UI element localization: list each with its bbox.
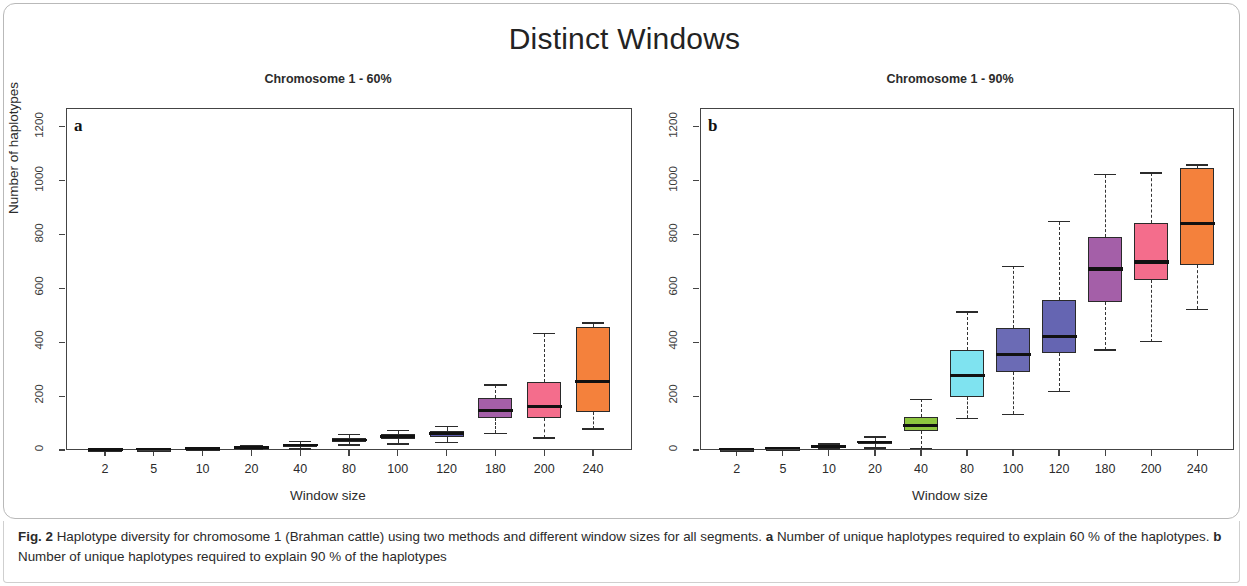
median-line — [136, 448, 171, 450]
x-tick-mark — [1012, 450, 1013, 456]
panel-b-x-axis-title: Window size — [652, 488, 1247, 503]
y-tick-mark — [693, 126, 699, 127]
x-tick-label: 180 — [1080, 462, 1130, 476]
median-line — [719, 448, 754, 450]
whisker-cap-upper — [1094, 174, 1116, 175]
y-tick-mark — [693, 180, 699, 181]
x-tick-label: 240 — [1172, 462, 1222, 476]
whisker-cap-lower — [435, 442, 457, 443]
whisker-cap-lower — [484, 433, 506, 434]
x-tick-mark — [920, 450, 921, 456]
x-tick-label: 2 — [712, 462, 762, 476]
y-tick-label: 200 — [667, 374, 679, 414]
y-tick-label: 600 — [667, 266, 679, 306]
median-line — [185, 447, 220, 449]
whisker-cap-lower — [956, 418, 978, 419]
x-tick-mark — [495, 450, 496, 456]
caption-b-text: Number of unique haplotypes required to … — [18, 549, 447, 564]
whisker-cap-upper — [582, 322, 604, 323]
x-tick-label: 40 — [896, 462, 946, 476]
whisker-lower — [1151, 280, 1152, 342]
caption-figure-label: Fig. 2 — [18, 529, 53, 544]
x-tick-label: 5 — [129, 462, 179, 476]
x-tick-mark — [1105, 450, 1106, 456]
x-tick-mark — [348, 450, 349, 456]
whisker-lower — [1059, 353, 1060, 392]
panel-letter: a — [74, 116, 83, 136]
panel-b: Chromosome 1 - 90% b02004006008001000120… — [652, 64, 1247, 524]
y-tick-mark — [59, 180, 65, 181]
x-tick-label: 240 — [568, 462, 618, 476]
y-tick-mark — [59, 396, 65, 397]
y-tick-mark — [693, 449, 699, 450]
x-tick-label: 20 — [226, 462, 276, 476]
whisker-lower — [967, 397, 968, 419]
x-tick-mark — [446, 450, 447, 456]
y-tick-label: 600 — [33, 266, 45, 306]
whisker-cap-upper — [289, 441, 311, 442]
figure-title: Distinct Windows — [4, 22, 1245, 56]
y-tick-label: 400 — [33, 320, 45, 360]
whisker-upper — [1013, 266, 1014, 328]
median-line — [1088, 267, 1123, 270]
median-line — [996, 353, 1031, 356]
whisker-cap-upper — [1140, 172, 1162, 173]
x-tick-label: 80 — [324, 462, 374, 476]
x-tick-label: 10 — [178, 462, 228, 476]
median-line — [88, 448, 123, 450]
whisker-upper — [544, 334, 545, 382]
x-tick-label: 100 — [988, 462, 1038, 476]
whisker-cap-lower — [1002, 414, 1024, 415]
x-tick-mark — [397, 450, 398, 456]
median-line — [903, 424, 938, 427]
x-tick-label: 40 — [275, 462, 325, 476]
median-line — [765, 447, 800, 449]
whisker-cap-upper — [387, 430, 409, 431]
median-line — [478, 409, 513, 412]
figure-page: Distinct Windows Chromosome 1 - 60% Numb… — [0, 0, 1247, 586]
y-tick-mark — [59, 342, 65, 343]
x-tick-mark — [544, 450, 545, 456]
y-tick-label: 400 — [667, 320, 679, 360]
whisker-cap-upper — [1048, 221, 1070, 222]
x-tick-label: 120 — [1034, 462, 1084, 476]
median-line — [234, 446, 269, 448]
y-tick-label: 200 — [33, 374, 45, 414]
panel-a-x-axis-title: Window size — [8, 488, 648, 503]
y-tick-mark — [59, 449, 65, 450]
whisker-cap-lower — [864, 447, 886, 448]
x-tick-label: 180 — [470, 462, 520, 476]
median-line — [527, 405, 562, 408]
x-tick-label: 100 — [373, 462, 423, 476]
whisker-cap-lower — [338, 444, 360, 445]
whisker-lower — [1105, 302, 1106, 349]
whisker-lower — [921, 431, 922, 449]
whisker-cap-lower — [533, 437, 555, 438]
x-tick-mark — [251, 450, 252, 456]
whisker-cap-lower — [387, 443, 409, 444]
y-tick-label: 1200 — [33, 105, 45, 145]
median-line — [857, 441, 892, 443]
x-tick-label: 2 — [80, 462, 130, 476]
whisker-upper — [967, 312, 968, 350]
box — [1134, 223, 1168, 280]
caption-a-text: Number of unique haplotypes required to … — [777, 529, 1210, 544]
x-tick-mark — [828, 450, 829, 456]
whisker-cap-lower — [910, 448, 932, 449]
whisker-cap-lower — [1140, 341, 1162, 342]
y-tick-mark — [59, 288, 65, 289]
whisker-upper — [1151, 173, 1152, 223]
whisker-cap-upper — [338, 434, 360, 435]
y-tick-mark — [693, 396, 699, 397]
whisker-lower — [1013, 372, 1014, 415]
x-tick-label: 200 — [1126, 462, 1176, 476]
y-tick-mark — [59, 126, 65, 127]
caption-a-label: a — [766, 529, 773, 544]
box — [996, 328, 1030, 372]
median-line — [283, 444, 318, 446]
x-tick-label: 80 — [942, 462, 992, 476]
y-tick-mark — [693, 234, 699, 235]
median-line — [575, 380, 610, 383]
y-tick-label: 800 — [33, 213, 45, 253]
median-line — [811, 445, 846, 447]
